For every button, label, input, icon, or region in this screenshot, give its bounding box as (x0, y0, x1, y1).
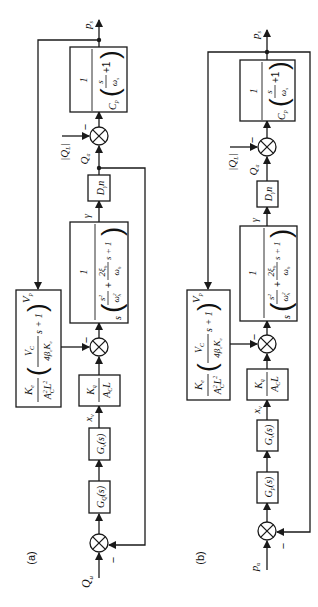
junction-dot (265, 50, 269, 54)
sum-junction-b-top (258, 138, 276, 156)
pump-text: Dγn (263, 187, 275, 203)
Gp-text: Gp(s) (263, 476, 275, 497)
sum-junction-a-bottom (90, 534, 108, 552)
minus-sign: − (277, 543, 289, 549)
svg-text:s + 1: s + 1 (103, 241, 113, 260)
svg-text:(b): (b) (194, 551, 206, 564)
svg-text:(: ( (22, 367, 52, 376)
svg-text:−: − (277, 543, 289, 549)
output-label-ps: ps (249, 30, 262, 40)
svg-text:s: s (95, 80, 105, 84)
svg-text:1: 1 (247, 88, 259, 94)
svg-text:γ: γ (81, 213, 92, 218)
Gv-text: Gv(s) (263, 424, 275, 445)
svg-text:xv: xv (251, 406, 263, 414)
panel-label-b: (b) (194, 551, 206, 564)
QL-label: |QL| (58, 143, 71, 160)
svg-text:+: + (272, 281, 283, 287)
svg-text:): ) (264, 61, 294, 70)
svg-text:−: − (79, 124, 91, 130)
junction-dot (97, 166, 101, 170)
svg-text:(: ( (192, 363, 222, 372)
svg-text:Gp(s): Gp(s) (263, 476, 275, 497)
sum-junction-a-top (90, 127, 108, 145)
svg-text:pu: pu (248, 563, 261, 573)
svg-text:+1: +1 (270, 71, 281, 83)
sum-junction-b-mid (258, 335, 276, 353)
xv-label: xv (83, 414, 95, 422)
gamma-label: γ (249, 217, 260, 222)
GQ-text: GQ(s) (95, 485, 107, 508)
svg-text:s + 1: s + 1 (272, 241, 282, 260)
svg-text:|QL|: |QL| (226, 153, 239, 170)
svg-text:): ) (96, 227, 127, 236)
input-label-Qu: Qu (79, 575, 95, 588)
svg-text:−: − (80, 337, 92, 343)
svg-text:ps: ps (249, 30, 262, 40)
svg-text:−: − (246, 137, 258, 143)
svg-text:s + 1: s + 1 (203, 311, 214, 332)
svg-text:|QL|: |QL| (58, 143, 71, 160)
panel-a (16, 20, 145, 578)
svg-text:s + 1: s + 1 (33, 313, 44, 334)
output-label-ps: ps (81, 20, 94, 30)
svg-text:Dγn: Dγn (95, 181, 107, 197)
svg-text:ω2h: ω2h (280, 292, 291, 301)
svg-text:(: ( (265, 302, 296, 312)
svg-text:+1: +1 (101, 61, 112, 73)
svg-text:ps: ps (81, 20, 94, 30)
svg-text:s: s (112, 316, 123, 320)
svg-text:Dγn: Dγn (263, 187, 275, 203)
svg-text:(a): (a) (25, 551, 37, 564)
Gv-text: Gv(s) (95, 433, 107, 454)
svg-text:s: s (281, 315, 292, 319)
svg-text:1: 1 (246, 270, 258, 276)
svg-text:s: s (264, 90, 274, 94)
svg-text:−: − (107, 557, 119, 563)
block-diagram: (a) Qu − GQ(s) Gv(s) xv Kq ACL Ke A2CL2 … (0, 0, 318, 607)
svg-text:(: ( (96, 303, 127, 313)
sum-junction-b-bottom (258, 522, 276, 540)
svg-text:): ) (22, 303, 52, 312)
panel-b (187, 30, 310, 570)
junction-dot (97, 38, 101, 42)
minus-sign: − (248, 334, 260, 340)
minus-sign: − (107, 557, 119, 563)
Qa-label: Qa (78, 154, 91, 165)
svg-text:Qu: Qu (79, 575, 95, 588)
svg-text:−: − (248, 334, 260, 340)
svg-text:Qa: Qa (78, 154, 91, 165)
svg-text:+: + (103, 282, 114, 288)
svg-text:γ: γ (249, 217, 260, 222)
minus-sign: − (246, 137, 258, 143)
QL-label: |QL| (226, 153, 239, 170)
svg-text:(: ( (95, 88, 125, 97)
minus-sign: − (80, 337, 92, 343)
svg-text:ω2h: ω2h (111, 293, 122, 302)
svg-text:): ) (265, 229, 296, 238)
svg-text:1: 1 (77, 77, 89, 83)
gamma-label: γ (81, 213, 92, 218)
Qa-label: Qa (247, 165, 260, 176)
svg-text:): ) (95, 50, 125, 59)
minus-sign: − (79, 124, 91, 130)
xv-label: xv (251, 406, 263, 414)
input-label-pu: pu (248, 563, 261, 573)
panel-label-a: (a) (25, 551, 37, 564)
svg-text:GQ(s): GQ(s) (95, 485, 107, 508)
svg-text:Qa: Qa (247, 165, 260, 176)
svg-text:1: 1 (77, 269, 89, 275)
svg-text:Gv(s): Gv(s) (95, 433, 107, 454)
pump-text: Dγn (95, 181, 107, 197)
sum-junction-a-mid (90, 338, 108, 356)
svg-text:(: ( (264, 98, 294, 107)
svg-text:Gv(s): Gv(s) (263, 424, 275, 445)
svg-text:xv: xv (83, 414, 95, 422)
